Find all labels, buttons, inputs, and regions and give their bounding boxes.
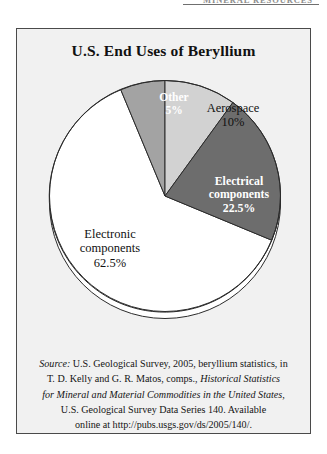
source-line-2: T. D. Kelly and G. R. Matos, comps., His… [31, 371, 296, 386]
figure-title: U.S. End Uses of Beryllium [17, 42, 310, 60]
source-line-3: for Mineral and Material Commodities in … [31, 387, 296, 402]
source-line-4: U.S. Geological Survey Data Series 140. … [31, 402, 296, 417]
source-line-2-italic: Historical Statistics [200, 373, 280, 384]
source-line-1: Source: U.S. Geological Survey, 2005, be… [31, 356, 296, 371]
source-line-5: online at http://pubs.usgs.gov/ds/2005/1… [31, 417, 296, 432]
source-line-1-rest: U.S. Geological Survey, 2005, beryllium … [70, 358, 287, 369]
pie-chart-svg [44, 75, 286, 337]
source-line-2-plain: T. D. Kelly and G. R. Matos, comps., [47, 373, 200, 384]
running-head: MINERAL RESOURCES [0, 0, 327, 7]
running-head-rule [183, 4, 319, 5]
figure-frame: U.S. End Uses of Beryllium Other 5% Aero… [16, 28, 311, 434]
source-label: Source: [39, 358, 70, 369]
pie-chart: Other 5% Aerospace 10% Electrical compon… [44, 75, 286, 337]
source-note: Source: U.S. Geological Survey, 2005, be… [31, 356, 296, 433]
